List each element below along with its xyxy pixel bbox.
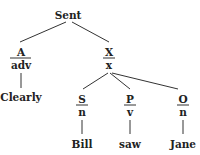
edge-x-s bbox=[83, 73, 108, 89]
edge-x-o bbox=[112, 73, 178, 89]
syntax-tree: Sent A adv Clearly X x S n Bill P v saw … bbox=[0, 0, 200, 155]
node-a-function: A bbox=[17, 46, 25, 58]
word-jane: Jane bbox=[170, 138, 196, 150]
node-o-function: O bbox=[178, 93, 187, 105]
root-node-sent: Sent bbox=[55, 9, 82, 21]
word-clearly: Clearly bbox=[0, 91, 41, 103]
word-saw: saw bbox=[119, 138, 141, 150]
edge-sent-x bbox=[72, 22, 109, 42]
tree-edges bbox=[0, 0, 200, 155]
node-o-category: n bbox=[179, 106, 187, 118]
edge-sent-a bbox=[20, 22, 66, 42]
node-s-category: n bbox=[78, 106, 86, 118]
node-x-category: x bbox=[106, 59, 112, 71]
node-p-category: v bbox=[127, 106, 133, 118]
node-a-category: adv bbox=[11, 59, 31, 71]
node-s-function: S bbox=[78, 93, 86, 105]
node-p-function: P bbox=[126, 93, 134, 105]
word-bill: Bill bbox=[72, 138, 93, 150]
node-x-function: X bbox=[105, 46, 113, 58]
